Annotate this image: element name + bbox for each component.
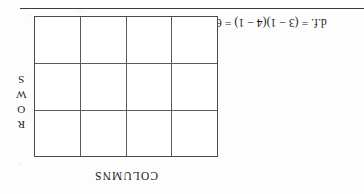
table-cell <box>172 110 218 156</box>
table-cell <box>81 110 127 156</box>
contingency-table-grid <box>34 16 218 157</box>
table-cell <box>35 63 81 109</box>
rows-label-letter: W <box>12 87 30 102</box>
rows-label-letter: S <box>12 72 30 87</box>
table-cell <box>126 110 172 156</box>
scanned-figure-content: d.f. = (3 − 1)(4 − 1) = 6 R O W S COLUMN… <box>0 0 364 194</box>
table-cell <box>172 17 218 63</box>
table-cell <box>81 17 127 63</box>
table-cell <box>35 110 81 156</box>
rows-label-letter: R <box>12 117 30 132</box>
table-cell <box>126 63 172 109</box>
columns-axis-label: COLUMNS <box>34 169 218 183</box>
rows-label-letter: O <box>12 102 30 117</box>
table-cell <box>35 17 81 63</box>
table-cell <box>126 17 172 63</box>
table-cell <box>81 63 127 109</box>
rows-axis-label: R O W S <box>12 72 30 132</box>
figure-page: d.f. = (3 − 1)(4 − 1) = 6 R O W S COLUMN… <box>0 0 364 194</box>
degrees-of-freedom-formula: d.f. = (3 − 1)(4 − 1) = 6 <box>216 14 346 32</box>
table-cell <box>172 63 218 109</box>
page-horizontal-rule <box>20 8 364 9</box>
